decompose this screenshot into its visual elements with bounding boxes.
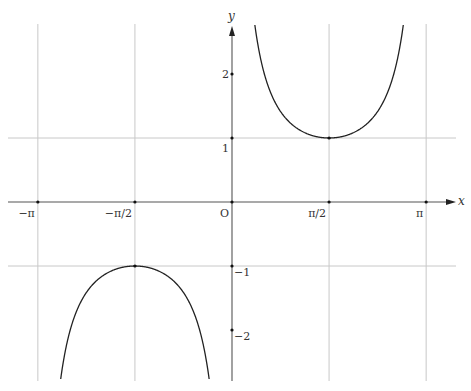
y-tick-dot	[230, 72, 233, 75]
chart-canvas: xy −π−π/2Oπ/2π21−1−2	[0, 0, 471, 391]
y-tick-label: −2	[234, 330, 250, 343]
y-axis-label: y	[227, 9, 235, 23]
x-axis-arrow-icon	[446, 199, 456, 205]
x-tick-dot	[425, 200, 428, 203]
x-tick-label: −π	[18, 207, 34, 220]
x-tick-label: π/2	[308, 207, 326, 220]
tick-labels: −π−π/2Oπ/2π21−1−2	[18, 68, 423, 343]
y-tick-label: 1	[222, 142, 229, 155]
x-tick-label: −π/2	[105, 207, 132, 220]
x-tick-label: O	[220, 207, 229, 220]
maximum-point-dot	[133, 264, 136, 267]
y-tick-label: 2	[222, 68, 229, 81]
x-tick-dot	[230, 200, 233, 203]
x-axis-label: x	[458, 194, 465, 208]
minimum-point-dot	[327, 136, 330, 139]
x-tick-dot	[327, 200, 330, 203]
cosecant-plot: xy −π−π/2Oπ/2π21−1−2	[0, 0, 471, 391]
y-tick-label: −1	[234, 266, 250, 279]
x-tick-dot	[36, 200, 39, 203]
y-axis-arrow-icon	[229, 26, 235, 36]
y-tick-dot	[230, 136, 233, 139]
x-tick-dot	[133, 200, 136, 203]
x-tick-label: π	[416, 207, 423, 220]
